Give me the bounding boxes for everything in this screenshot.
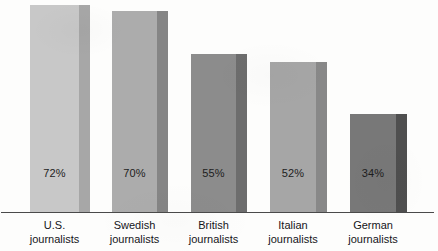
bar-front-face: [30, 5, 79, 212]
x-axis-category-label: Germanjournalists: [328, 218, 418, 246]
bar: 55%: [191, 54, 247, 212]
category-label-line-1: British: [169, 218, 259, 232]
bar-front-face: [270, 62, 316, 212]
bar-front-face: [112, 11, 157, 212]
x-axis-category-label: Italianjournalists: [248, 218, 338, 246]
bar: 52%: [270, 62, 327, 212]
category-label-line-2: journalists: [248, 232, 338, 246]
bar: 34%: [350, 114, 407, 212]
x-axis-category-label: Swedishjournalists: [90, 218, 180, 246]
category-label-line-1: German: [328, 218, 418, 232]
x-axis-category-label: U.S.journalists: [10, 218, 100, 246]
category-label-line-1: Italian: [248, 218, 338, 232]
bar: 72%: [30, 5, 90, 212]
bar-side-face: [316, 62, 327, 212]
chart-page: 72%70%55%52%34% U.S.journalistsSwedishjo…: [0, 0, 438, 251]
category-label-line-2: journalists: [169, 232, 259, 246]
bar-front-face: [350, 114, 396, 212]
x-axis-baseline: [1, 212, 434, 213]
bar: 70%: [112, 11, 168, 212]
bar-value-label: 55%: [191, 168, 236, 179]
category-label-line-1: Swedish: [90, 218, 180, 232]
category-label-line-1: U.S.: [10, 218, 100, 232]
bar-value-label: 70%: [112, 168, 157, 179]
bar-value-label: 52%: [270, 168, 316, 179]
bar-side-face: [236, 54, 247, 212]
bar-side-face: [79, 5, 90, 212]
category-label-line-2: journalists: [10, 232, 100, 246]
category-label-line-2: journalists: [90, 232, 180, 246]
bar-value-label: 34%: [350, 168, 396, 179]
category-label-line-2: journalists: [328, 232, 418, 246]
bar-side-face: [157, 11, 168, 212]
bar-side-face: [396, 114, 407, 212]
bar-chart-plot-area: 72%70%55%52%34%: [0, 0, 438, 251]
bar-front-face: [191, 54, 236, 212]
x-axis-category-label: Britishjournalists: [169, 218, 259, 246]
bar-value-label: 72%: [30, 168, 79, 179]
